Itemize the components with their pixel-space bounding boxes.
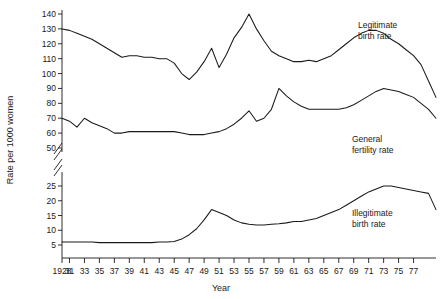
- x-tick-label-35: 35: [95, 266, 105, 276]
- series-line-general-fertility-rate: [62, 88, 436, 134]
- x-tick-label-75: 75: [394, 266, 404, 276]
- series-label-general-line2: fertility rate: [352, 145, 394, 155]
- x-tick-label-33: 33: [80, 266, 90, 276]
- x-axis-title: Year: [212, 283, 230, 293]
- x-tick-label-43: 43: [155, 266, 165, 276]
- x-tick-label-59: 59: [274, 266, 284, 276]
- series-label-legitimate-line2: birth rate: [358, 31, 392, 41]
- x-tick-label-37: 37: [110, 266, 120, 276]
- y-tick-130-label: 130: [42, 24, 56, 34]
- x-axis-tick-labels: 1928313335373941434547495153555759616365…: [53, 266, 419, 276]
- x-tick-label-51: 51: [214, 266, 224, 276]
- x-tick-label-63: 63: [304, 266, 314, 276]
- y-tick-20-label: 20: [47, 196, 57, 206]
- y-axis-tick-labels: 5060708090100110120130140510152025: [42, 9, 56, 250]
- x-tick-label-57: 57: [259, 266, 269, 276]
- y-tick-80-label: 80: [47, 98, 57, 108]
- x-tick-label-73: 73: [379, 266, 389, 276]
- x-tick-label-47: 47: [184, 266, 194, 276]
- x-tick-label-45: 45: [169, 266, 179, 276]
- y-tick-110-label: 110: [42, 54, 56, 64]
- x-tick-label-41: 41: [140, 266, 150, 276]
- x-tick-label-31: 31: [65, 266, 75, 276]
- series-label-legitimate-line1: Legitimate: [358, 20, 397, 30]
- y-tick-60-label: 60: [47, 128, 57, 138]
- chart-canvas: 5060708090100110120130140510152025 19283…: [0, 0, 443, 299]
- y-tick-120-label: 120: [42, 39, 56, 49]
- y-tick-10-label: 10: [47, 225, 57, 235]
- series-label-illegitimate-line1: Illegitimate: [352, 208, 393, 218]
- x-tick-label-53: 53: [229, 266, 239, 276]
- series-label-general-line1: General: [352, 134, 382, 144]
- x-tick-label-49: 49: [199, 266, 209, 276]
- x-tick-label-65: 65: [319, 266, 329, 276]
- x-tick-label-67: 67: [334, 266, 344, 276]
- series-label-illegitimate-line2: birth rate: [352, 219, 386, 229]
- y-tick-50-label: 50: [47, 143, 57, 153]
- x-tick-label-77: 77: [409, 266, 419, 276]
- line-chart: 5060708090100110120130140510152025 19283…: [0, 0, 443, 299]
- y-tick-100-label: 100: [42, 69, 56, 79]
- y-tick-90-label: 90: [47, 83, 57, 93]
- x-tick-label-69: 69: [349, 266, 359, 276]
- y-tick-5-label: 5: [51, 240, 56, 250]
- y-tick-140-label: 140: [42, 9, 56, 19]
- x-tick-label-39: 39: [125, 266, 135, 276]
- x-tick-label-61: 61: [289, 266, 299, 276]
- y-tick-25-label: 25: [47, 181, 57, 191]
- y-tick-15-label: 15: [47, 211, 57, 221]
- y-axis-title: Rate per 1000 women: [5, 96, 15, 185]
- x-axis-ticks: [62, 258, 414, 263]
- x-tick-label-71: 71: [364, 266, 374, 276]
- y-axis-ticks: [58, 14, 62, 245]
- y-tick-70-label: 70: [47, 113, 57, 123]
- x-tick-label-55: 55: [244, 266, 254, 276]
